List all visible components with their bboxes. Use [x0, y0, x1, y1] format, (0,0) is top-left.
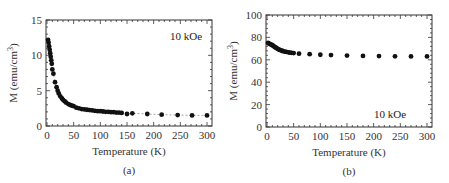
- data-point: [205, 113, 210, 118]
- y-axis-title: M (emu/cm3): [6, 43, 20, 103]
- data-point: [145, 112, 150, 117]
- x-tick-label: 50: [68, 129, 80, 141]
- data-point: [425, 54, 430, 59]
- data-point: [49, 61, 54, 66]
- x-tick-label: 200: [145, 129, 162, 141]
- data-point: [159, 112, 164, 117]
- data-point: [130, 111, 135, 116]
- x-tick-label: 300: [199, 129, 216, 141]
- x-tick-label: 50: [288, 130, 300, 142]
- y-tick-label: 5: [37, 85, 43, 97]
- y-tick-label: 100: [246, 9, 263, 21]
- data-point: [190, 113, 195, 118]
- x-tick-label: 0: [44, 129, 50, 141]
- y-tick-label: 10: [31, 49, 43, 61]
- y-tick-label: 80: [251, 31, 263, 43]
- x-tick-label: 0: [264, 130, 270, 142]
- x-axis-title: Temperature (K): [92, 145, 166, 158]
- chart-panel-a: 050100150200250300051015Temperature (K)M…: [0, 0, 224, 183]
- x-tick-label: 150: [339, 130, 356, 142]
- data-point: [318, 52, 323, 57]
- x-tick-label: 100: [92, 129, 109, 141]
- x-tick-label: 250: [392, 130, 409, 142]
- chart-a-svg: 050100150200250300051015Temperature (K)M…: [0, 0, 224, 183]
- data-point: [329, 53, 334, 58]
- y-tick-label: 60: [251, 54, 263, 66]
- x-tick-label: 200: [365, 130, 382, 142]
- y-axis-title: M (emu/cm3): [226, 41, 240, 101]
- y-tick-label: 20: [251, 99, 263, 111]
- y-tick-label: 40: [251, 76, 263, 88]
- y-tick-label: 15: [31, 14, 43, 26]
- data-point: [393, 54, 398, 59]
- data-point: [377, 54, 382, 59]
- data-point: [307, 52, 312, 57]
- data-point: [361, 53, 366, 58]
- x-tick-label: 100: [312, 130, 329, 142]
- data-point: [119, 111, 124, 116]
- panel-caption: (a): [123, 164, 136, 177]
- data-point: [125, 112, 130, 117]
- y-tick-label: 0: [257, 121, 263, 133]
- data-point: [50, 67, 55, 72]
- data-point: [409, 54, 414, 59]
- x-tick-label: 150: [119, 129, 136, 141]
- data-point: [345, 53, 350, 58]
- data-point: [175, 113, 180, 118]
- data-point: [51, 71, 56, 76]
- x-tick-label: 300: [419, 130, 436, 142]
- data-point: [297, 51, 302, 56]
- field-annotation: 10 kOe: [170, 30, 202, 42]
- x-tick-label: 250: [172, 129, 189, 141]
- field-annotation: 10 kOe: [374, 108, 406, 120]
- y-tick-label: 0: [37, 120, 43, 132]
- panel-caption: (b): [343, 165, 356, 178]
- data-point: [53, 80, 58, 85]
- data-point: [291, 51, 296, 56]
- x-axis-title: Temperature (K): [312, 146, 386, 159]
- chart-b-svg: 050100150200250300020406080100Temperatur…: [224, 0, 449, 183]
- plot-frame: [266, 15, 432, 127]
- chart-panel-b: 050100150200250300020406080100Temperatur…: [224, 0, 448, 183]
